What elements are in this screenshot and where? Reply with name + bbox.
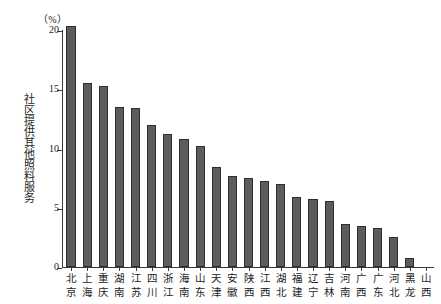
x-axis-label: 浙江 bbox=[161, 272, 175, 299]
x-axis-label: 重庆 bbox=[96, 272, 110, 299]
y-tick-label: 0 bbox=[54, 261, 59, 273]
x-axis-label: 天津 bbox=[209, 272, 223, 299]
x-tick-mark bbox=[168, 268, 169, 271]
bar bbox=[228, 176, 237, 267]
bar bbox=[179, 139, 188, 267]
x-axis-label: 湖南 bbox=[112, 272, 126, 299]
x-axis-labels: 北京上海重庆湖南江苏四川浙江海南山东天津安徽陕西江西湖北福建辽宁吉林河南广西广东… bbox=[62, 272, 434, 304]
x-axis-label: 北京 bbox=[64, 272, 78, 299]
x-tick-mark bbox=[136, 268, 137, 271]
y-tick-label: 20 bbox=[49, 24, 59, 36]
x-axis-label: 江苏 bbox=[129, 272, 143, 299]
x-axis-label: 广西 bbox=[354, 272, 368, 299]
x-tick-mark bbox=[119, 268, 120, 271]
bar bbox=[147, 125, 156, 267]
bar bbox=[66, 26, 75, 267]
bar bbox=[115, 107, 124, 267]
bar bbox=[196, 146, 205, 267]
x-axis-label: 广东 bbox=[371, 272, 385, 299]
bar bbox=[308, 199, 317, 267]
x-axis-label: 黑龙 bbox=[403, 272, 417, 299]
x-axis-label: 辽宁 bbox=[306, 272, 320, 299]
x-tick-mark bbox=[216, 268, 217, 271]
x-tick-mark bbox=[410, 268, 411, 271]
bar bbox=[292, 197, 301, 267]
bar bbox=[99, 86, 108, 267]
bar bbox=[389, 237, 398, 267]
x-tick-mark bbox=[329, 268, 330, 271]
x-tick-mark bbox=[87, 268, 88, 271]
bar bbox=[163, 134, 172, 267]
x-tick-mark bbox=[426, 268, 427, 271]
bar bbox=[325, 201, 334, 267]
x-tick-mark bbox=[378, 268, 379, 271]
x-tick-mark bbox=[361, 268, 362, 271]
bar bbox=[373, 228, 382, 267]
x-axis-label: 海南 bbox=[177, 272, 191, 299]
x-axis-label: 河南 bbox=[338, 272, 352, 299]
bar bbox=[341, 224, 350, 267]
bar bbox=[83, 83, 92, 267]
bar bbox=[260, 181, 269, 268]
bar bbox=[357, 226, 366, 267]
x-tick-mark bbox=[394, 268, 395, 271]
x-axis-label: 安徽 bbox=[225, 272, 239, 299]
y-tick-label: 10 bbox=[49, 143, 59, 155]
bar-chart: （%） 社区提供其他照料服务 05101520 北京上海重庆湖南江苏四川浙江海南… bbox=[0, 0, 441, 304]
x-tick-mark bbox=[184, 268, 185, 271]
y-tick-label: 15 bbox=[49, 83, 59, 95]
bar bbox=[405, 258, 414, 267]
x-tick-mark bbox=[249, 268, 250, 271]
x-tick-mark bbox=[281, 268, 282, 271]
x-tick-mark bbox=[345, 268, 346, 271]
x-axis-label: 河北 bbox=[387, 272, 401, 299]
bar bbox=[212, 167, 221, 267]
x-tick-mark bbox=[313, 268, 314, 271]
bar bbox=[276, 184, 285, 267]
x-tick-mark bbox=[265, 268, 266, 271]
x-tick-mark bbox=[200, 268, 201, 271]
x-axis-label: 江西 bbox=[258, 272, 272, 299]
x-axis-label: 山西 bbox=[419, 272, 433, 299]
x-axis-label: 湖北 bbox=[274, 272, 288, 299]
x-axis-label: 四川 bbox=[145, 272, 159, 299]
y-axis-title: 社区提供其他照料服务 bbox=[19, 48, 39, 248]
x-axis-label: 上海 bbox=[80, 272, 94, 299]
y-tick-label: 5 bbox=[54, 202, 59, 214]
x-tick-mark bbox=[71, 268, 72, 271]
x-axis-label: 吉林 bbox=[322, 272, 336, 299]
bar bbox=[244, 178, 253, 267]
x-tick-mark bbox=[103, 268, 104, 271]
plot-area: 05101520 bbox=[62, 30, 434, 268]
x-tick-mark bbox=[152, 268, 153, 271]
bar-series bbox=[63, 30, 434, 267]
x-tick-mark bbox=[232, 268, 233, 271]
bar bbox=[131, 108, 140, 267]
x-axis-label: 陕西 bbox=[242, 272, 256, 299]
x-axis-label: 山东 bbox=[193, 272, 207, 299]
x-axis-label: 福建 bbox=[290, 272, 304, 299]
x-tick-mark bbox=[297, 268, 298, 271]
